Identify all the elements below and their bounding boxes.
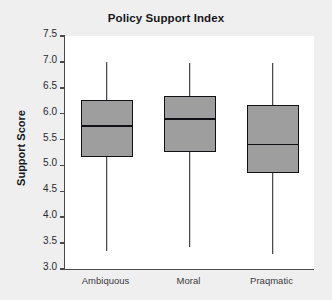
chart-figure: Policy Support Index Support Score 3.03.… — [0, 0, 332, 300]
y-tick-label: 4.0 — [43, 209, 57, 220]
y-tick-label: 5.5 — [43, 132, 57, 143]
x-axis-label-praqmatic: Praqmatic — [250, 275, 293, 286]
y-tick-label: 3.0 — [43, 261, 57, 272]
y-tick-label: 3.5 — [43, 235, 57, 246]
y-tick-label: 6.0 — [43, 106, 57, 117]
y-axis-title: Support Score — [15, 88, 27, 208]
chart-title: Policy Support Index — [0, 12, 332, 24]
y-tick-label: 4.5 — [43, 183, 57, 194]
x-axis-label-ambiquous: Ambiquous — [82, 275, 130, 286]
y-tick-label: 7.5 — [43, 28, 57, 39]
y-tick-label: 5.0 — [43, 157, 57, 168]
box-plot-group — [65, 36, 314, 269]
y-tick-label: 7.0 — [43, 54, 57, 65]
plot-inner: 3.03.54.04.55.05.56.06.57.07.5 — [65, 36, 314, 269]
y-tick-label: 6.5 — [43, 80, 57, 91]
box-rect — [247, 105, 299, 173]
plot-area: 3.03.54.04.55.05.56.06.57.07.5 — [64, 36, 314, 270]
x-axis-label-moral: Moral — [177, 275, 201, 286]
median-line — [247, 144, 299, 146]
